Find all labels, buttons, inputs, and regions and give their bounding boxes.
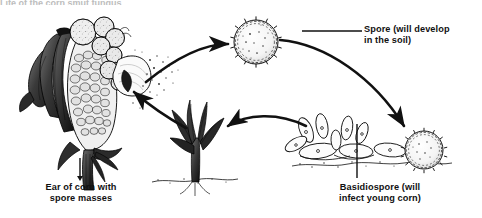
spore-ball-illustration: [230, 16, 281, 67]
ear-leader-arrowhead: [77, 176, 83, 181]
label-spore: Spore (will develop in the soil): [364, 24, 450, 47]
arrow-basidiospore-to-seedling: [228, 116, 306, 126]
basidiospore-illustration: [283, 113, 452, 178]
arrow-seedling-to-ear: [134, 92, 186, 128]
arrow-spore-to-basidiospore: [280, 40, 404, 126]
figure-canvas: Life of the corn smut fungus: [0, 0, 482, 218]
ear-of-corn-illustration: [19, 17, 178, 190]
label-ear-of-corn: Ear of corn with spore masses: [8, 182, 154, 205]
label-basidiospore: Basidiospore (will infect young corn): [300, 182, 460, 205]
arrow-ear-to-spore: [146, 44, 228, 82]
